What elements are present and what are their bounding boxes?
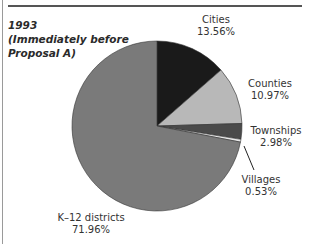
label-villages: Villages 0.53% bbox=[236, 174, 286, 198]
pie-chart bbox=[0, 0, 311, 244]
label-townships: Townships 2.98% bbox=[244, 125, 308, 149]
label-counties: Counties 10.97% bbox=[240, 78, 300, 102]
chart-frame: 1993 (Immediately before Proposal A) Cit… bbox=[0, 0, 311, 244]
label-k12-districts: K–12 districts 71.96% bbox=[46, 212, 136, 236]
label-cities: Cities 13.56% bbox=[186, 14, 246, 38]
villages-leader-line bbox=[244, 146, 254, 170]
pie-slices bbox=[72, 41, 242, 211]
